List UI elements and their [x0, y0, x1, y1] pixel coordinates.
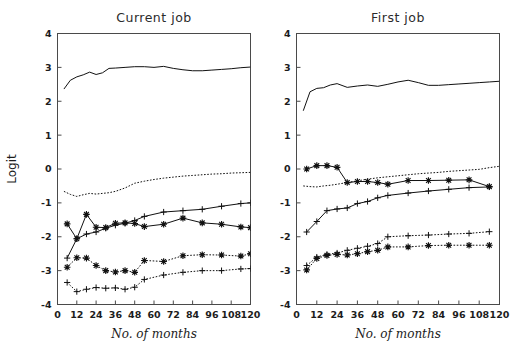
marker-plus [199, 268, 205, 274]
marker-star [314, 162, 321, 169]
marker-plus [405, 233, 411, 239]
y-axis-title: Logit [5, 154, 19, 184]
marker-star [74, 235, 81, 242]
marker-star [344, 179, 351, 186]
marker-star [141, 257, 148, 264]
marker-star [199, 220, 206, 227]
marker-star [141, 223, 148, 230]
chart-svg: Current job-4-3-2-1012340122436486072849… [0, 0, 519, 350]
marker-plus [103, 285, 109, 291]
marker-plus [466, 185, 472, 191]
marker-plus [466, 230, 472, 236]
marker-star [131, 220, 138, 227]
marker-plus [161, 209, 167, 215]
panel-title: Current job [116, 10, 191, 25]
plot-frame [58, 34, 251, 305]
marker-star [344, 252, 351, 259]
marker-star [303, 267, 310, 274]
marker-star [405, 177, 412, 184]
series-path [303, 166, 499, 187]
marker-plus [83, 231, 89, 237]
marker-plus [238, 266, 244, 272]
x-tick-label: 72 [412, 309, 425, 320]
marker-star [405, 244, 412, 251]
marker-star [83, 211, 90, 218]
marker-plus [364, 198, 370, 204]
y-tick-label: 3 [284, 62, 291, 73]
y-tick-label: -2 [41, 231, 52, 242]
y-tick-label: -4 [280, 299, 291, 310]
marker-plus [93, 284, 99, 290]
x-tick-label: 12 [310, 309, 323, 320]
series-path [307, 166, 490, 187]
marker-plus [486, 229, 492, 235]
series-solid-plus-marker [64, 200, 254, 261]
marker-plus [344, 205, 350, 211]
series-group [303, 80, 499, 273]
marker-star [238, 224, 245, 231]
y-tick-label: -3 [280, 265, 291, 276]
marker-plus [161, 272, 167, 278]
series-path [307, 245, 490, 270]
x-tick-label: 84 [186, 309, 200, 320]
series-path [307, 187, 490, 232]
marker-plus [385, 234, 391, 240]
marker-plus [247, 200, 253, 206]
marker-plus [446, 231, 452, 237]
marker-star [466, 177, 473, 184]
series-dotted-plus-marker [64, 265, 254, 294]
marker-star [102, 224, 109, 231]
marker-star [247, 224, 254, 231]
marker-plus [64, 279, 70, 285]
series-path [64, 66, 251, 89]
marker-star [445, 242, 452, 249]
marker-star [131, 269, 138, 276]
marker-plus [218, 203, 224, 209]
marker-plus [180, 269, 186, 275]
x-tick-label: 60 [147, 309, 161, 320]
marker-plus [405, 190, 411, 196]
marker-plus [218, 268, 224, 274]
marker-star [93, 224, 100, 231]
x-tick-label: 108 [221, 309, 241, 320]
x-tick-label: 108 [469, 309, 489, 320]
series-path [303, 80, 499, 110]
series-dotted-star-marker [64, 250, 254, 275]
series-solid-star-marker [303, 162, 492, 190]
marker-star [303, 166, 310, 173]
marker-star [385, 244, 392, 251]
series-dotted-plus-marker [304, 229, 493, 269]
marker-star [374, 247, 381, 254]
marker-star [218, 252, 225, 259]
marker-star [374, 179, 381, 186]
marker-plus [334, 206, 340, 212]
marker-star [334, 164, 341, 171]
marker-star [74, 254, 81, 261]
x-tick-label: 0 [54, 309, 61, 320]
marker-star [314, 255, 321, 262]
x-axis-title: No. of months [354, 327, 441, 341]
x-tick-label: 0 [293, 309, 300, 320]
y-tick-label: 1 [284, 130, 291, 141]
x-tick-label: 24 [89, 309, 103, 320]
marker-star [445, 177, 452, 184]
x-axis-title: No. of months [110, 327, 197, 341]
marker-star [160, 221, 167, 228]
marker-star [180, 215, 187, 222]
x-tick-label: 96 [205, 309, 219, 320]
marker-plus [199, 206, 205, 212]
marker-plus [425, 232, 431, 238]
marker-star [238, 253, 245, 260]
x-tick-label: 60 [391, 309, 405, 320]
marker-star [122, 220, 129, 227]
y-tick-label: -2 [280, 231, 291, 242]
marker-plus [141, 213, 147, 219]
marker-star [425, 177, 432, 184]
series-dotted-star-marker [303, 242, 492, 273]
panel-current-job: Current job-4-3-2-1012340122436486072849… [41, 10, 261, 341]
x-tick-label: 96 [452, 309, 466, 320]
marker-star [486, 242, 493, 249]
marker-plus [446, 186, 452, 192]
x-tick-label: 120 [490, 309, 510, 320]
marker-star [112, 220, 119, 227]
